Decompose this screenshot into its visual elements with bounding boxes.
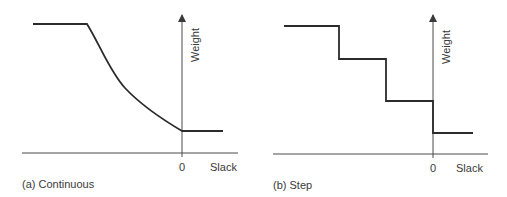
origin-label: 0 xyxy=(430,162,436,174)
figure: Weight 0 Slack (a) Continuous Weight 0 S… xyxy=(0,0,507,197)
x-axis-label: Slack xyxy=(456,162,483,174)
caption: (a) Continuous xyxy=(22,178,95,190)
panel-step: Weight 0 Slack (b) Step xyxy=(273,15,488,191)
x-axis-label: Slack xyxy=(210,161,237,173)
panel-continuous: Weight 0 Slack (a) Continuous xyxy=(22,15,238,190)
caption: (b) Step xyxy=(273,179,312,191)
origin-label: 0 xyxy=(179,161,185,173)
y-axis-label: Weight xyxy=(440,30,452,64)
y-axis-label: Weight xyxy=(189,28,201,62)
